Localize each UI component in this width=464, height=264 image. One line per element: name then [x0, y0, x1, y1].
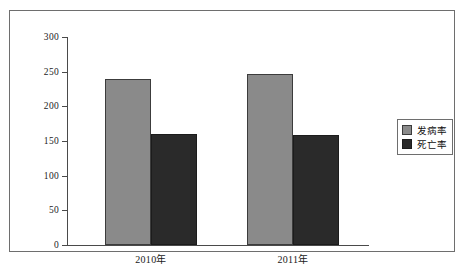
- legend-item-label: 死亡率: [417, 137, 447, 151]
- legend-item: 死亡率: [402, 137, 447, 151]
- legend-item: 发病率: [402, 123, 447, 137]
- legend-swatch-icon: [402, 139, 412, 149]
- y-axis-line: [67, 37, 68, 245]
- bar-2011年-死亡率: [293, 135, 339, 245]
- bar-2010年-死亡率: [151, 134, 197, 245]
- legend-swatch-icon: [402, 125, 412, 135]
- y-axis-tick: [62, 37, 67, 38]
- y-axis-tick-label: 150: [44, 136, 59, 146]
- bar-2010年-发病率: [105, 79, 151, 245]
- x-axis-line: [67, 245, 369, 246]
- y-axis-tick-label: 250: [44, 67, 59, 77]
- x-axis-category-label: 2011年: [277, 251, 308, 264]
- y-axis-tick: [62, 72, 67, 73]
- x-axis-category-label: 2010年: [135, 251, 167, 264]
- y-axis-tick-label: 0: [54, 240, 59, 250]
- bar-chart-plot-area: 050100150200250300 2010年2011年: [67, 37, 369, 245]
- y-axis-tick: [62, 106, 67, 107]
- bar-2011年-发病率: [247, 74, 293, 245]
- y-axis-tick-label: 100: [44, 171, 59, 181]
- y-axis-tick: [62, 210, 67, 211]
- y-axis-tick-label: 300: [44, 32, 59, 42]
- y-axis-tick: [62, 245, 67, 246]
- y-axis-tick-label: 50: [49, 205, 59, 215]
- legend-item-label: 发病率: [417, 123, 447, 137]
- y-axis-tick-label: 200: [44, 101, 59, 111]
- figure-frame: 050100150200250300 2010年2011年 发病率死亡率: [9, 10, 455, 252]
- chart-legend: 发病率死亡率: [397, 119, 453, 155]
- y-axis-tick: [62, 141, 67, 142]
- y-axis-tick: [62, 176, 67, 177]
